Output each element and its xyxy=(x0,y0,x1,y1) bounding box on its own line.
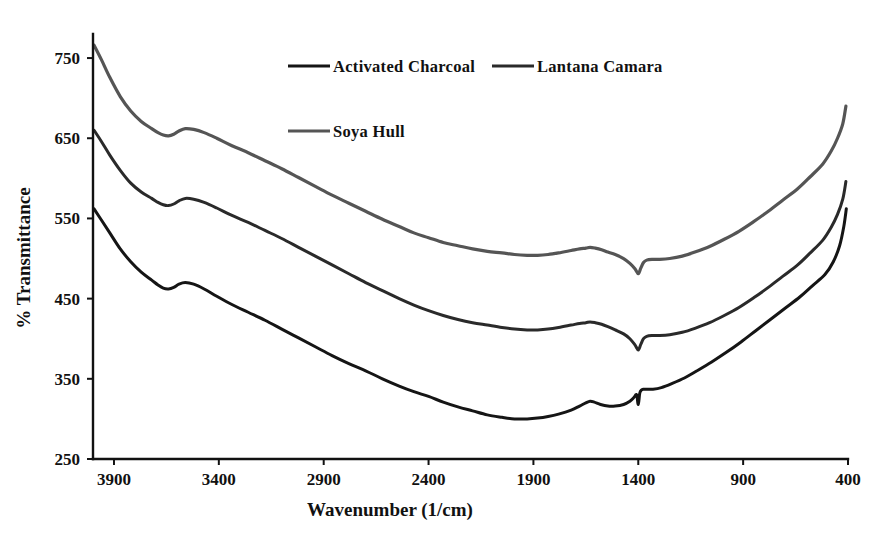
y-tick-label: 350 xyxy=(55,370,81,389)
spectrum-line-activated-charcoal xyxy=(94,209,846,419)
x-tick-label: 400 xyxy=(835,470,861,489)
legend-label-activated-charcoal: Activated Charcoal xyxy=(333,57,475,76)
plot-area xyxy=(94,45,846,419)
spectrum-line-lantana-camara xyxy=(94,130,846,350)
spectrum-line-soya-hull xyxy=(94,45,846,274)
legend-label-lantana-camara: Lantana Camara xyxy=(537,57,663,76)
x-tick-label: 3900 xyxy=(97,470,131,489)
x-tick-label: 1400 xyxy=(621,470,655,489)
ftir-spectra-figure: 2503504505506507503900340029002400190014… xyxy=(0,0,895,534)
y-tick-label: 450 xyxy=(55,290,81,309)
y-tick-label: 750 xyxy=(55,49,81,68)
chart-canvas: 2503504505506507503900340029002400190014… xyxy=(0,0,895,534)
y-tick-label: 250 xyxy=(55,450,81,469)
y-axis-title: % Transmittance xyxy=(13,187,34,328)
legend-label-soya-hull: Soya Hull xyxy=(333,122,405,141)
axes-group xyxy=(87,34,848,465)
x-axis-title: Wavenumber (1/cm) xyxy=(307,499,473,521)
y-tick-label: 550 xyxy=(55,209,81,228)
chart-legend: Activated CharcoalLantana CamaraSoya Hul… xyxy=(288,57,663,141)
x-tick-label: 1900 xyxy=(516,470,550,489)
tick-labels-group: 2503504505506507503900340029002400190014… xyxy=(55,49,861,489)
y-tick-label: 650 xyxy=(55,129,81,148)
spectrum-series-group xyxy=(94,45,846,419)
x-tick-label: 3400 xyxy=(202,470,236,489)
x-tick-label: 2400 xyxy=(412,470,446,489)
x-tick-label: 2900 xyxy=(307,470,341,489)
x-tick-label: 900 xyxy=(730,470,756,489)
